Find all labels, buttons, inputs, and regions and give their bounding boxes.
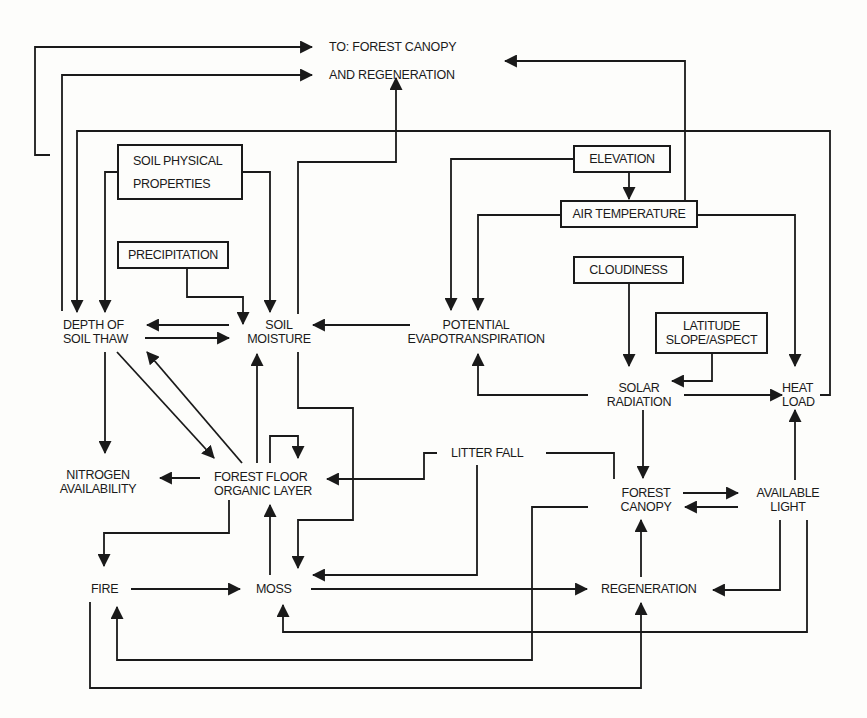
edge-floor-to-fire bbox=[104, 500, 229, 566]
edge-canopy-to-fire bbox=[117, 507, 588, 660]
node-available-light: AVAILABLE LIGHT bbox=[748, 486, 828, 514]
node-label: SOLAR bbox=[596, 381, 682, 395]
node-label: FOREST FLOOR bbox=[214, 470, 312, 484]
node-soil-physical-properties: SOIL PHYSICAL PROPERTIES bbox=[117, 144, 243, 200]
node-label: CLOUDINESS bbox=[589, 263, 667, 277]
connector-lines bbox=[0, 0, 867, 718]
edge-light-to-regen bbox=[713, 520, 780, 590]
node-soil-moisture: SOIL MOISTURE bbox=[243, 318, 315, 346]
node-litter-fall: LITTER FALL bbox=[451, 446, 523, 460]
node-regeneration: REGENERATION bbox=[601, 582, 697, 596]
node-potential-evapotranspiration: POTENTIAL EVAPOTRANSPIRATION bbox=[395, 318, 557, 346]
node-label: ELEVATION bbox=[589, 152, 655, 166]
node-precipitation: PRECIPITATION bbox=[117, 241, 229, 269]
node-label: LOAD bbox=[782, 395, 815, 409]
node-latitude-slope-aspect: LATITUDE SLOPE/ASPECT bbox=[655, 312, 768, 354]
node-label: FIRE bbox=[91, 582, 118, 596]
diagram-canvas: TO: FOREST CANOPY AND REGENERATION SOIL … bbox=[0, 0, 867, 718]
node-nitrogen-availability: NITROGEN AVAILABILITY bbox=[48, 468, 148, 496]
node-elevation: ELEVATION bbox=[573, 145, 671, 173]
edge-fire-to-regen bbox=[90, 602, 641, 688]
node-label: RADIATION bbox=[596, 395, 682, 409]
node-cloudiness: CLOUDINESS bbox=[573, 256, 684, 284]
node-label: LIGHT bbox=[748, 500, 828, 514]
node-fire: FIRE bbox=[91, 582, 118, 596]
node-label: AVAILABLE bbox=[748, 486, 828, 500]
edge-solar-to-pet bbox=[478, 354, 588, 395]
node-label: MOSS bbox=[256, 582, 292, 596]
node-label: PRECIPITATION bbox=[128, 248, 218, 262]
node-moss: MOSS bbox=[256, 582, 292, 596]
edge-soilphys-to-moisture bbox=[243, 172, 270, 312]
edge-thaw-to-floor bbox=[117, 352, 214, 458]
edge-elevation-to-pet bbox=[451, 159, 573, 310]
header-line-2: AND REGENERATION bbox=[329, 68, 455, 82]
node-label: ORGANIC LAYER bbox=[214, 484, 312, 498]
edge-light-to-moss bbox=[283, 520, 807, 632]
node-label: LITTER FALL bbox=[451, 446, 523, 460]
edge-canopy-to-litter bbox=[546, 453, 614, 479]
node-label: AIR TEMPERATURE bbox=[572, 207, 685, 221]
node-air-temperature: AIR TEMPERATURE bbox=[560, 200, 698, 228]
edge-precip-to-moisture bbox=[187, 269, 243, 324]
edge-soilphys-to-thaw bbox=[105, 172, 117, 312]
edge-moisture-to-header bbox=[298, 78, 396, 314]
node-label: EVAPOTRANSPIRATION bbox=[395, 332, 557, 346]
node-label: SOIL bbox=[243, 318, 315, 332]
edge-litter-to-floor bbox=[327, 453, 437, 479]
node-forest-canopy: FOREST CANOPY bbox=[614, 486, 678, 514]
edge-airtemp-to-pet bbox=[478, 215, 560, 310]
edge-floor-to-thaw bbox=[147, 352, 242, 463]
node-depth-of-soil-thaw: DEPTH OF SOIL THAW bbox=[63, 318, 128, 346]
node-solar-radiation: SOLAR RADIATION bbox=[596, 381, 682, 409]
edge-latitude-to-solar bbox=[672, 354, 712, 381]
node-label: AVAILABILITY bbox=[48, 482, 148, 496]
edge-moisture-to-moss bbox=[298, 352, 353, 568]
node-label: LATITUDE bbox=[683, 319, 740, 333]
node-label: CANOPY bbox=[614, 500, 678, 514]
node-heat-load: HEAT LOAD bbox=[782, 381, 815, 409]
node-label: DEPTH OF bbox=[63, 318, 128, 332]
node-label: MOISTURE bbox=[243, 332, 315, 346]
node-label: POTENTIAL bbox=[395, 318, 557, 332]
node-label: SOIL THAW bbox=[63, 332, 128, 346]
node-label: REGENERATION bbox=[601, 582, 697, 596]
node-label: SLOPE/ASPECT bbox=[666, 333, 758, 347]
node-label: PROPERTIES bbox=[133, 177, 210, 191]
header-line-1: TO: FOREST CANOPY bbox=[329, 40, 456, 54]
node-forest-floor-organic-layer: FOREST FLOOR ORGANIC LAYER bbox=[214, 470, 312, 498]
edge-floor-self-loop bbox=[270, 436, 298, 463]
node-label: SOIL PHYSICAL bbox=[133, 154, 222, 168]
node-label: NITROGEN bbox=[48, 468, 148, 482]
node-label: HEAT bbox=[782, 381, 815, 395]
node-label: FOREST bbox=[614, 486, 678, 500]
